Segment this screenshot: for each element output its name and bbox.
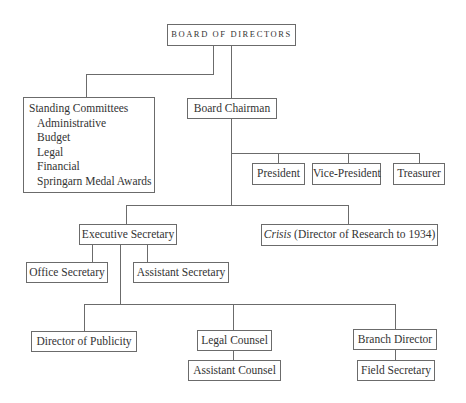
- connector: [126, 205, 127, 224]
- connector: [348, 205, 349, 224]
- treasurer-node: Treasurer: [393, 163, 445, 185]
- office-secretary-node: Office Secretary: [26, 262, 108, 283]
- connector: [120, 244, 121, 304]
- org-chart: BOARD OF DIRECTORS Standing Committees A…: [0, 0, 466, 403]
- connector: [348, 153, 349, 163]
- committee-item: Financial: [29, 159, 154, 174]
- connector: [278, 153, 279, 163]
- connector: [233, 304, 234, 330]
- vice-president-node: Vice-President: [312, 163, 381, 185]
- committee-item: Administrative: [29, 116, 154, 131]
- connector: [126, 205, 349, 206]
- assistant-secretary-node: Assistant Secretary: [133, 262, 229, 283]
- assistant-counsel-node: Assistant Counsel: [188, 360, 281, 381]
- crisis-title: Crisis: [264, 228, 292, 240]
- legal-counsel-node: Legal Counsel: [197, 330, 272, 351]
- board-chairman-node: Board Chairman: [187, 98, 277, 119]
- connector: [233, 350, 234, 360]
- committee-item: Springarn Medal Awards: [29, 174, 154, 189]
- connector: [231, 45, 232, 98]
- connector: [86, 74, 214, 75]
- connector: [84, 304, 85, 331]
- connector: [231, 153, 420, 154]
- crisis-subtitle: (Director of Research to 1934): [291, 228, 435, 240]
- connector: [92, 244, 93, 262]
- connector: [231, 118, 232, 205]
- committee-item: Legal: [29, 145, 154, 160]
- crisis-node: Crisis (Director of Research to 1934): [261, 224, 438, 246]
- field-secretary-node: Field Secretary: [357, 360, 435, 381]
- branch-director-node: Branch Director: [353, 329, 437, 350]
- president-node: President: [252, 163, 305, 185]
- executive-secretary-node: Executive Secretary: [79, 224, 177, 245]
- connector: [213, 45, 214, 74]
- standing-committees-node: Standing Committees Administrative Budge…: [23, 97, 155, 193]
- connector: [147, 244, 148, 262]
- director-of-publicity-node: Director of Publicity: [31, 331, 137, 352]
- standing-committees-title: Standing Committees: [29, 101, 154, 116]
- connector: [86, 74, 87, 97]
- board-of-directors-node: BOARD OF DIRECTORS: [167, 24, 296, 46]
- connector: [84, 304, 396, 305]
- connector: [419, 153, 420, 163]
- connector: [395, 304, 396, 329]
- committee-item: Budget: [29, 130, 154, 145]
- connector: [395, 349, 396, 360]
